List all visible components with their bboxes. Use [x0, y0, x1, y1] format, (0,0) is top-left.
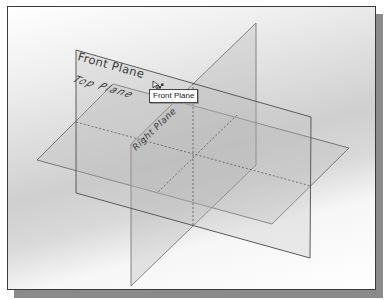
plane-tooltip: Front Plane: [149, 89, 198, 103]
select-plane-cursor-icon: [152, 77, 164, 89]
datum-planes-scene: Front Plane Top Plane Right Plane: [8, 7, 375, 289]
graphics-viewport[interactable]: Front Plane Top Plane Right Plane Front …: [7, 6, 376, 290]
